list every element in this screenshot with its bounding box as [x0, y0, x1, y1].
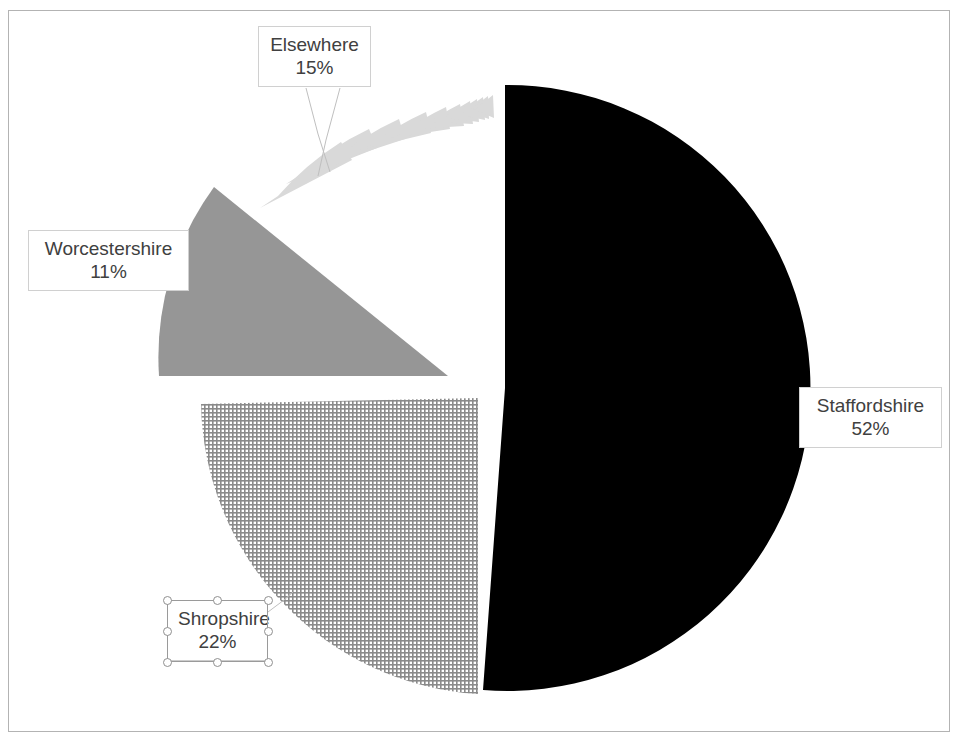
pie-slice-group-elsewhere[interactable] [260, 95, 494, 208]
pie-chart-canvas: Elsewhere 15% Worcestershire 11% Staffor… [0, 0, 963, 753]
data-label-worcestershire-name: Worcestershire [39, 237, 178, 260]
pie-slice-worcestershire[interactable] [158, 187, 448, 376]
pie-subslice-elsewhere-3 [323, 119, 405, 166]
pie-graphic [0, 0, 963, 753]
data-label-staffordshire-value: 52% [810, 417, 931, 440]
data-label-worcestershire-value: 11% [39, 260, 178, 283]
data-label-elsewhere[interactable]: Elsewhere 15% [258, 26, 371, 87]
pie-slice-staffordshire[interactable] [483, 85, 810, 691]
data-label-shropshire-name: Shropshire [178, 607, 257, 630]
data-label-staffordshire[interactable]: Staffordshire 52% [799, 387, 942, 448]
data-label-elsewhere-value: 15% [269, 56, 360, 79]
pie-subslice-elsewhere-2 [286, 129, 377, 184]
data-label-shropshire-value: 22% [178, 630, 257, 653]
data-label-staffordshire-name: Staffordshire [810, 394, 931, 417]
data-label-elsewhere-name: Elsewhere [269, 33, 360, 56]
data-label-worcestershire[interactable]: Worcestershire 11% [28, 230, 189, 291]
data-label-shropshire[interactable]: Shropshire 22% [167, 600, 268, 661]
